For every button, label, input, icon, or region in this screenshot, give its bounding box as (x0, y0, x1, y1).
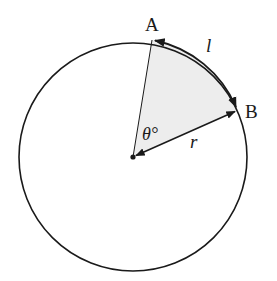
sector-diagram: A B l r θ° (0, 0, 277, 281)
angle-theta-label: θ° (142, 124, 158, 144)
point-b-label: B (245, 101, 258, 122)
radius-label: r (190, 131, 198, 152)
arc-length-label: l (206, 35, 211, 56)
point-a-label: A (145, 14, 159, 35)
center-point (130, 154, 135, 159)
